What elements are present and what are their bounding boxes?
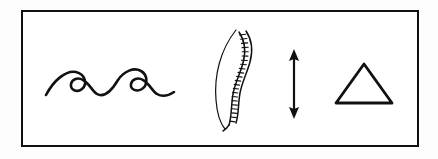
waves-icon: [44, 58, 184, 106]
vertical-double-arrow-icon: [278, 48, 310, 120]
pictograph-panel: [0, 0, 438, 159]
triangle-outline-icon: [330, 58, 398, 110]
spine-icon: [206, 28, 264, 132]
